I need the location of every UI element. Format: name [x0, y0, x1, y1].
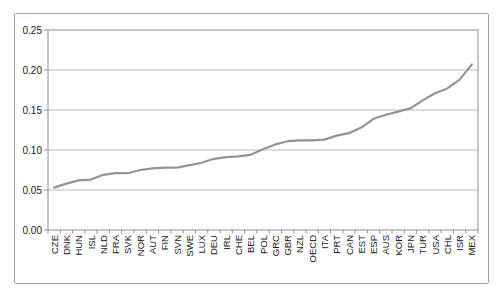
x-tick-label: ISL	[86, 235, 97, 249]
y-tick-label: 0.05	[23, 185, 43, 196]
x-tick-label: AUT	[147, 235, 158, 254]
chart-image: 0.000.050.100.150.200.25CZEDNKHUNISLNLDF…	[0, 0, 502, 298]
x-tick-label: FRA	[110, 234, 121, 254]
x-tick-label: NZL	[294, 235, 305, 253]
x-tick-label: SVK	[122, 234, 133, 254]
x-tick-label: BEL	[245, 235, 256, 253]
x-tick-label: SWE	[184, 235, 195, 257]
x-tick-label: DEU	[208, 235, 219, 255]
x-tick-label: HUN	[73, 235, 84, 256]
x-tick-label: ESP	[368, 235, 379, 254]
plot-border	[48, 30, 478, 230]
x-tick-label: OECD	[307, 235, 318, 263]
x-tick-label: LUX	[196, 234, 207, 253]
x-tick-label: NLD	[98, 235, 109, 254]
x-tick-label: CHL	[442, 235, 453, 254]
x-tick-label: CZE	[49, 235, 60, 254]
x-tick-label: USA	[430, 234, 441, 254]
x-tick-label: FIN	[159, 235, 170, 250]
x-tick-label: ISR	[454, 235, 465, 251]
x-tick-label: CAN	[344, 235, 355, 255]
y-tick-label: 0.20	[23, 65, 43, 76]
x-tick-label: POL	[258, 235, 269, 254]
y-tick-label: 0.25	[23, 25, 43, 36]
y-tick-label: 0.00	[23, 225, 43, 236]
x-tick-label: CHE	[233, 235, 244, 255]
series-line	[54, 64, 472, 187]
x-tick-label: GRC	[270, 235, 281, 256]
x-tick-label: ITA	[319, 234, 330, 249]
x-tick-label: JPN	[405, 235, 416, 253]
x-tick-label: IRL	[221, 235, 232, 250]
x-tick-label: AUS	[380, 235, 391, 255]
x-tick-label: KOR	[393, 235, 404, 256]
x-tick-label: EST	[356, 235, 367, 254]
x-tick-label: TUR	[417, 235, 428, 255]
x-tick-label: SVN	[172, 235, 183, 255]
x-tick-label: GBR	[282, 235, 293, 256]
x-tick-label: MEX	[466, 234, 477, 255]
x-tick-label: NOR	[135, 235, 146, 256]
y-tick-label: 0.15	[23, 105, 43, 116]
line-chart: 0.000.050.100.150.200.25CZEDNKHUNISLNLDF…	[0, 0, 502, 298]
y-tick-label: 0.10	[23, 145, 43, 156]
x-tick-label: PRT	[331, 235, 342, 254]
x-tick-label: DNK	[61, 234, 72, 255]
